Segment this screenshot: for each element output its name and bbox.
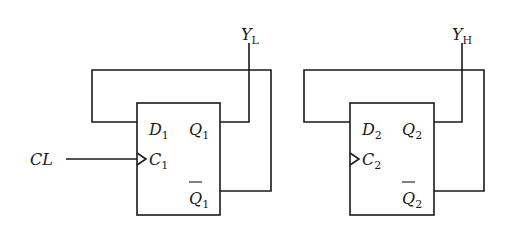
flip-flop-2: D2 C2 Q2 Q2 YH [304, 25, 484, 215]
q2-output-wire [434, 43, 462, 122]
output-yh-label: YH [452, 25, 472, 47]
output-yl-label: YL [241, 25, 260, 47]
flip-flop-1: CL D1 C1 Q1 Q1 YL [30, 25, 271, 215]
clock-label: CL [30, 150, 53, 169]
circuit-diagram: CL D1 C1 Q1 Q1 YL D2 C2 Q2 Q2 YH [0, 0, 512, 234]
q1-output-wire [220, 43, 249, 122]
